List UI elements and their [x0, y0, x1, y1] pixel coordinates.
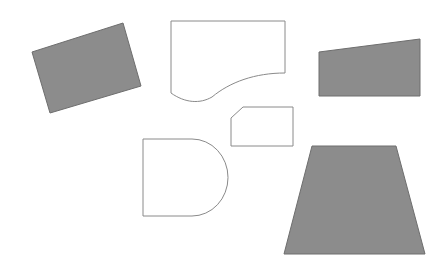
rotated-rectangle-shape: [32, 23, 141, 113]
d-shape: [143, 139, 228, 216]
trapezoid-shape: [284, 146, 425, 254]
snipped-rectangle-shape: [231, 107, 293, 146]
right-trapezoid-shape: [319, 39, 420, 96]
shapes-canvas: [0, 0, 438, 264]
document-shape: [171, 21, 285, 102]
